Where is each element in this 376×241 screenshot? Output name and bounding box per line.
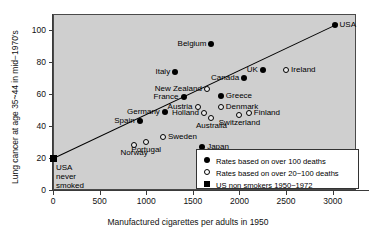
data-point-label: Sweden [168, 133, 197, 141]
data-point [246, 110, 252, 116]
legend-label: US non smokers 1950~1972 [216, 182, 312, 190]
data-point-label: Switzerland [179, 119, 299, 127]
x-tick [239, 191, 240, 195]
x-tick [53, 191, 54, 195]
data-point-label: Canada [119, 74, 239, 82]
y-tick [49, 94, 53, 95]
x-tick [286, 191, 287, 195]
x-tick-label: 2500 [266, 197, 306, 206]
y-tick [49, 62, 53, 63]
data-point [218, 93, 224, 99]
data-point-label: New Zealand [82, 85, 202, 93]
data-point-label: Norway [74, 149, 194, 157]
legend-marker [204, 169, 210, 175]
data-point-label: Germany [40, 108, 160, 116]
data-point-label: Greece [226, 92, 252, 100]
data-point [218, 104, 224, 110]
x-tick-label: 3000 [313, 197, 353, 206]
legend-label: Rates based on over 20~100 deaths [216, 170, 339, 178]
data-point [137, 118, 143, 124]
y-tick [49, 30, 53, 31]
y-axis-title: Lung cancer at age 35~44 in mid−1970's [11, 30, 20, 184]
y-axis-line [52, 14, 53, 191]
x-axis-title: Manufactured cigarettes per adults in 19… [0, 218, 376, 227]
y-tick-label: 0 [13, 186, 46, 195]
x-tick-label: 2000 [219, 197, 259, 206]
chart-legend: Rates based on over 100 deathsRates base… [196, 149, 359, 189]
legend-marker [204, 181, 210, 187]
data-point [162, 109, 168, 115]
data-point-label: Finland [254, 109, 280, 117]
legend-marker [204, 157, 210, 163]
x-tick-label: 0 [33, 197, 73, 206]
data-point-label: France [59, 93, 179, 101]
scatter-chart: 020406080100 050010001500200025003000 Lu… [0, 0, 376, 241]
usa-never-smoked-annotation: USA never smoked [56, 164, 84, 191]
x-tick [333, 191, 334, 195]
data-point [181, 94, 187, 100]
x-tick [146, 191, 147, 195]
data-point [332, 22, 338, 28]
x-tick [100, 191, 101, 195]
data-point [260, 67, 266, 73]
x-tick-label: 500 [80, 197, 120, 206]
x-tick-label: 1500 [173, 197, 213, 206]
x-tick [193, 191, 194, 195]
legend-label: Rates based on over 100 deaths [216, 158, 326, 166]
data-point [50, 155, 57, 162]
y-tick [49, 126, 53, 127]
data-point [204, 86, 210, 92]
data-point-label: Belgium [86, 40, 206, 48]
data-point-label: USA [340, 21, 356, 29]
data-point-label: Spain [15, 117, 135, 125]
x-tick-label: 1000 [126, 197, 166, 206]
data-point-label: Ireland [291, 66, 315, 74]
